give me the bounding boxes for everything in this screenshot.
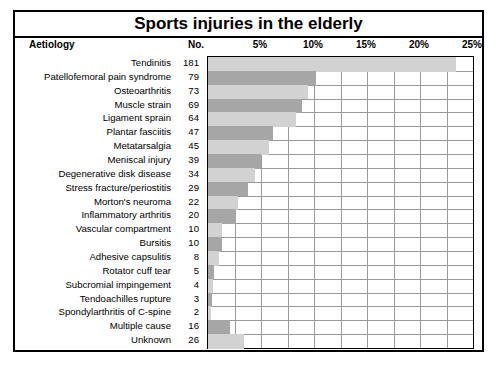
horizontal-gridline <box>208 293 473 294</box>
category-count: 79 <box>175 70 199 85</box>
category-count: 5 <box>175 264 199 279</box>
category-label: Tendinitis <box>131 56 171 71</box>
category-count: 8 <box>175 250 199 265</box>
category-label: Adhesive capsulitis <box>89 250 171 265</box>
bar <box>208 126 273 141</box>
vertical-gridline <box>394 57 395 348</box>
category-label: Vascular compartment <box>76 222 171 237</box>
table-row: Tendinitis181 <box>15 56 207 71</box>
table-row: Stress fracture/periostitis29 <box>15 181 207 196</box>
vertical-gridline <box>447 57 448 348</box>
horizontal-gridline <box>208 334 473 335</box>
category-count: 10 <box>175 222 199 237</box>
category-label: Tendoachilles rupture <box>80 292 171 307</box>
table-row: Osteoarthritis73 <box>15 84 207 99</box>
bar <box>208 279 213 294</box>
bar <box>208 293 212 308</box>
table-row: Tendoachilles rupture3 <box>15 292 207 307</box>
x-axis-tick-labels: 5%10%15%20%25% <box>15 39 482 55</box>
table-row: Patellofemoral pain syndrome79 <box>15 70 207 85</box>
table-row: Subcromial impingement4 <box>15 278 207 293</box>
table-row: Vascular compartment10 <box>15 222 207 237</box>
table-row: Degenerative disk disease34 <box>15 167 207 182</box>
bar <box>208 71 316 86</box>
category-label: Unknown <box>131 333 171 348</box>
category-count: 4 <box>175 278 199 293</box>
table-row: Muscle strain69 <box>15 98 207 113</box>
category-count: 34 <box>175 167 199 182</box>
table-row: Ligament sprain64 <box>15 111 207 126</box>
table-row: Bursitis10 <box>15 236 207 251</box>
category-count: 26 <box>175 333 199 348</box>
category-count: 29 <box>175 181 199 196</box>
bar <box>208 168 255 183</box>
category-count: 69 <box>175 98 199 113</box>
table-row: Multiple cause16 <box>15 319 207 334</box>
x-tick-15: 15% <box>356 39 376 50</box>
x-tick-5: 5% <box>253 39 267 50</box>
bar <box>208 320 230 335</box>
x-tick-25: 25% <box>462 39 482 50</box>
bar <box>208 223 222 238</box>
category-label: Meniscal injury <box>108 153 171 168</box>
table-row: Plantar fasciitis47 <box>15 125 207 140</box>
x-tick-20: 20% <box>409 39 429 50</box>
category-label: Morton's neuroma <box>94 195 171 210</box>
category-label: Plantar fasciitis <box>106 125 171 140</box>
category-label: Patellofemoral pain syndrome <box>44 70 171 85</box>
category-count: 47 <box>175 125 199 140</box>
category-label: Subcromial impingement <box>65 278 171 293</box>
category-count: 10 <box>175 236 199 251</box>
horizontal-gridline <box>208 306 473 307</box>
horizontal-gridline <box>208 251 473 252</box>
category-label: Degenerative disk disease <box>58 167 171 182</box>
bar <box>208 140 269 155</box>
category-count: 73 <box>175 84 199 99</box>
plot-area <box>207 56 474 349</box>
chart-body: Tendinitis181Patellofemoral pain syndrom… <box>15 56 482 350</box>
title-bar: Sports injuries in the elderly <box>15 12 482 38</box>
bar <box>208 85 308 100</box>
bar <box>208 265 214 280</box>
bar <box>208 182 248 197</box>
category-count: 3 <box>175 292 199 307</box>
category-label: Ligament sprain <box>103 111 171 126</box>
bar <box>208 251 219 266</box>
horizontal-gridline <box>208 209 473 210</box>
table-row: Adhesive capsulitis8 <box>15 250 207 265</box>
bar <box>208 99 302 114</box>
bar <box>208 112 296 127</box>
x-tick-10: 10% <box>303 39 323 50</box>
bar <box>208 237 222 252</box>
vertical-gridline <box>420 57 421 348</box>
category-count: 181 <box>175 56 199 71</box>
vertical-gridline <box>314 57 315 348</box>
horizontal-gridline <box>208 279 473 280</box>
bar <box>208 334 244 349</box>
horizontal-gridline <box>208 237 473 238</box>
vertical-gridline <box>367 57 368 348</box>
category-label: Multiple cause <box>110 319 171 334</box>
table-row: Morton's neuroma22 <box>15 195 207 210</box>
category-count: 64 <box>175 111 199 126</box>
category-count: 45 <box>175 139 199 154</box>
page-title: Sports injuries in the elderly <box>134 14 363 34</box>
table-row: Metatarsalgia45 <box>15 139 207 154</box>
table-row: Unknown26 <box>15 333 207 348</box>
category-count: 2 <box>175 305 199 320</box>
bar <box>208 209 236 224</box>
horizontal-gridline <box>208 265 473 266</box>
category-label: Stress fracture/periostitis <box>65 181 171 196</box>
category-label: Osteoarthritis <box>114 84 171 99</box>
category-label-column: Tendinitis181Patellofemoral pain syndrom… <box>15 56 207 350</box>
vertical-gridline <box>341 57 342 348</box>
bar <box>208 306 211 321</box>
bar <box>208 154 261 169</box>
category-count: 20 <box>175 208 199 223</box>
category-label: Inflammatory arthritis <box>81 208 171 223</box>
bar <box>208 196 238 211</box>
bar <box>208 57 456 72</box>
horizontal-gridline <box>208 320 473 321</box>
category-label: Spondylarthritis of C-spine <box>58 305 171 320</box>
table-row: Spondylarthritis of C-spine2 <box>15 305 207 320</box>
